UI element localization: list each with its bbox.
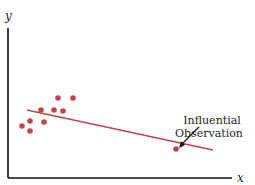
data-point — [51, 107, 57, 113]
annotation-line2: Observation — [175, 127, 243, 140]
data-point — [38, 107, 44, 113]
scatter-chart: y x Influential Observation — [0, 0, 255, 185]
data-point — [70, 95, 76, 101]
data-point — [60, 108, 66, 114]
data-point — [19, 123, 25, 129]
data-point — [55, 95, 61, 101]
y-axis-label: y — [4, 9, 12, 23]
x-axis-label: x — [237, 171, 244, 185]
data-point — [27, 128, 33, 134]
influential-point — [173, 146, 179, 152]
data-point — [27, 118, 33, 124]
annotation-line1: Influential — [183, 114, 241, 127]
data-point — [41, 119, 47, 125]
axes — [8, 28, 232, 178]
